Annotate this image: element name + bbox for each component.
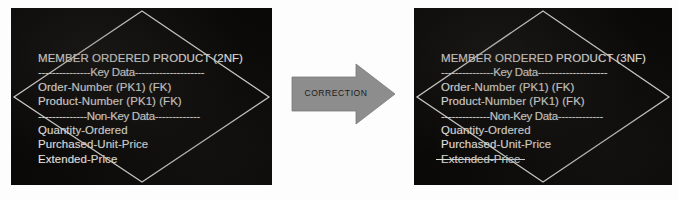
correction-arrow-label: CORRECTION <box>301 88 371 98</box>
non-key-attribute-purchased-unit-price: Purchased-Unit-Price <box>441 137 646 151</box>
before-entity-panel: MEMBER ORDERED PRODUCT (2NF) -----------… <box>11 8 272 185</box>
non-key-attribute-purchased-unit-price: Purchased-Unit-Price <box>38 137 243 151</box>
key-data-separator: ---------------Key Data-----------------… <box>38 65 243 79</box>
non-key-attribute-quantity-ordered: Quantity-Ordered <box>441 123 646 137</box>
non-key-data-separator: --------------Non-Key Data------------- <box>38 109 243 123</box>
key-data-separator: ---------------Key Data-----------------… <box>441 65 646 79</box>
key-attribute-product-number: Product-Number (PK1) (FK) <box>38 94 243 108</box>
key-attribute-product-number: Product-Number (PK1) (FK) <box>441 94 646 108</box>
key-attribute-order-number: Order-Number (PK1) (FK) <box>38 80 243 94</box>
entity-title: MEMBER ORDERED PRODUCT (2NF) <box>38 51 243 65</box>
diagram-stage: MEMBER ORDERED PRODUCT (2NF) -----------… <box>0 0 679 200</box>
non-key-data-separator: --------------Non-Key Data------------- <box>441 109 646 123</box>
key-attribute-order-number: Order-Number (PK1) (FK) <box>441 80 646 94</box>
non-key-attribute-extended-price-removed: Extended-Price <box>441 152 646 166</box>
entity-title: MEMBER ORDERED PRODUCT (3NF) <box>441 51 646 65</box>
after-entity-panel: MEMBER ORDERED PRODUCT (3NF) -----------… <box>414 8 672 185</box>
non-key-attribute-extended-price: Extended-Price <box>38 152 243 166</box>
entity-attribute-list: MEMBER ORDERED PRODUCT (2NF) -----------… <box>38 51 243 166</box>
struck-label: Extended-Price <box>441 152 520 166</box>
entity-attribute-list: MEMBER ORDERED PRODUCT (3NF) -----------… <box>441 51 646 166</box>
non-key-attribute-quantity-ordered: Quantity-Ordered <box>38 123 243 137</box>
correction-arrow: CORRECTION <box>291 62 397 126</box>
